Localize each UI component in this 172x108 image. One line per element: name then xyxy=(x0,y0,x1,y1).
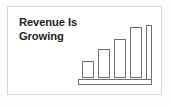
chart-vertical-axis xyxy=(147,26,152,84)
chart-bar-1 xyxy=(83,62,94,78)
bar-chart-graphic xyxy=(76,13,162,91)
bar-chart-svg xyxy=(76,13,162,91)
chart-bar-2 xyxy=(99,50,110,78)
chart-baseline-axis xyxy=(79,80,152,85)
screenshot-canvas: Revenue Is Growing xyxy=(0,0,172,108)
chart-bar-4 xyxy=(131,28,142,78)
chart-bar-3 xyxy=(115,40,126,78)
revenue-card: Revenue Is Growing xyxy=(7,6,162,95)
